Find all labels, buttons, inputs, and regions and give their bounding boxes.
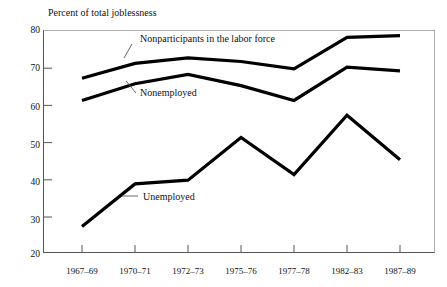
series-line-nonparticipants bbox=[82, 36, 400, 79]
plot-area bbox=[0, 0, 447, 287]
leader-line-nonparticipants bbox=[124, 44, 132, 58]
y-tick-marks bbox=[44, 68, 53, 217]
series-line-unemployed bbox=[82, 115, 400, 226]
chart-container: Percent of total joblessness 80 70 60 50… bbox=[0, 0, 447, 287]
x-tick-marks bbox=[82, 245, 400, 253]
series-line-nonemployed bbox=[82, 67, 400, 100]
